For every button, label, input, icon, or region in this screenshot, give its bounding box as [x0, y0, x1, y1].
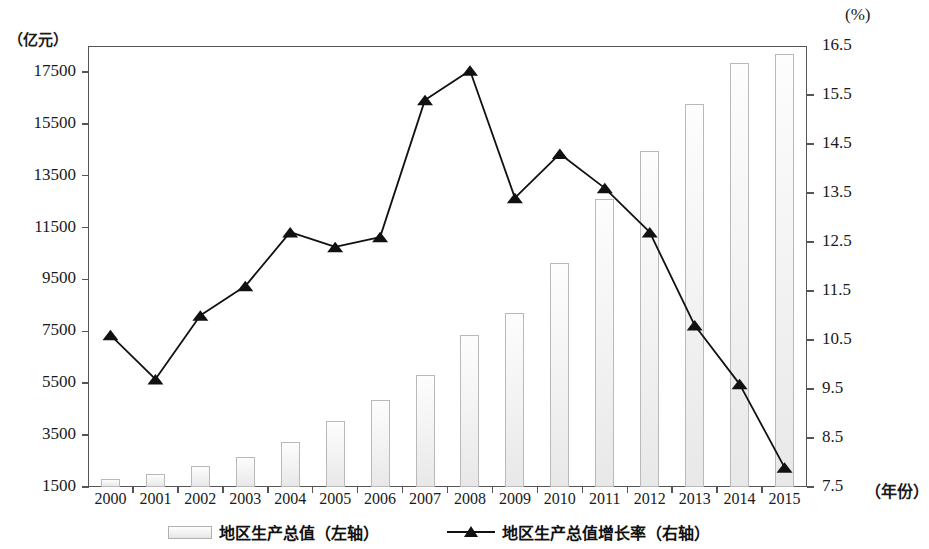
right-tick-mark: [807, 192, 814, 194]
right-tick-mark: [807, 290, 814, 292]
left-tick-label: 7500: [0, 320, 76, 340]
x-axis-unit-label: （年份）: [865, 478, 929, 502]
right-axis-unit-label: (%): [845, 5, 870, 25]
bar: [775, 54, 794, 487]
left-tick-mark: [82, 123, 89, 125]
right-tick-label: 11.5: [822, 280, 851, 300]
right-tick-label: 12.5: [822, 231, 852, 251]
gdp-growth-combo-chart: （亿元） (%) （年份） 15003500550075009500115001…: [0, 0, 929, 549]
bar: [236, 457, 255, 487]
bar: [101, 479, 120, 487]
bar: [281, 442, 300, 487]
left-tick-label: 11500: [0, 217, 76, 237]
chart-legend: 地区生产总值（左轴） 地区生产总值增长率（右轴）: [0, 517, 929, 549]
left-tick-label: 13500: [0, 165, 76, 185]
left-tick-mark: [82, 331, 89, 333]
bar: [550, 263, 569, 487]
right-tick-label: 10.5: [822, 329, 852, 349]
bar: [416, 375, 435, 487]
bar: [326, 421, 345, 487]
legend-item-gdp-label: 地区生产总值（左轴）: [219, 520, 379, 544]
left-tick-mark: [82, 486, 89, 488]
left-tick-label: 3500: [0, 424, 76, 444]
right-tick-mark: [807, 437, 814, 439]
legend-bar-swatch-icon: [168, 526, 212, 539]
left-tick-mark: [82, 175, 89, 177]
right-tick-label: 13.5: [822, 182, 852, 202]
right-tick-label: 14.5: [822, 133, 852, 153]
right-tick-label: 16.5: [822, 35, 852, 55]
right-tick-mark: [807, 486, 814, 488]
bar: [685, 104, 704, 487]
right-tick-mark: [807, 388, 814, 390]
left-tick-label: 17500: [0, 61, 76, 81]
x-tick-label: 2015: [757, 490, 813, 508]
left-tick-mark: [82, 71, 89, 73]
right-tick-mark: [807, 143, 814, 145]
left-tick-mark: [82, 227, 89, 229]
left-tick-label: 1500: [0, 476, 76, 496]
right-tick-mark: [807, 241, 814, 243]
right-tick-label: 7.5: [822, 476, 843, 496]
bar: [371, 400, 390, 487]
legend-item-growth-rate-label: 地区生产总值增长率（右轴）: [502, 520, 710, 544]
bar: [505, 313, 524, 487]
legend-line-triangle-icon: [447, 525, 495, 539]
right-tick-mark: [807, 94, 814, 96]
left-axis-unit-label: （亿元）: [8, 28, 68, 49]
bar: [191, 466, 210, 487]
left-tick-mark: [82, 382, 89, 384]
legend-item-growth-rate: 地区生产总值增长率（右轴）: [447, 520, 710, 544]
bar: [730, 63, 749, 487]
left-tick-mark: [82, 279, 89, 281]
left-tick-mark: [82, 434, 89, 436]
bar: [146, 474, 165, 487]
left-tick-label: 15500: [0, 113, 76, 133]
right-tick-label: 9.5: [822, 378, 843, 398]
bar: [460, 335, 479, 487]
right-tick-label: 15.5: [822, 84, 852, 104]
legend-item-gdp: 地区生产总值（左轴）: [168, 520, 379, 544]
left-tick-label: 5500: [0, 372, 76, 392]
bar: [640, 151, 659, 487]
right-tick-label: 8.5: [822, 427, 843, 447]
bar: [595, 199, 614, 487]
right-tick-mark: [807, 339, 814, 341]
left-tick-label: 9500: [0, 268, 76, 288]
